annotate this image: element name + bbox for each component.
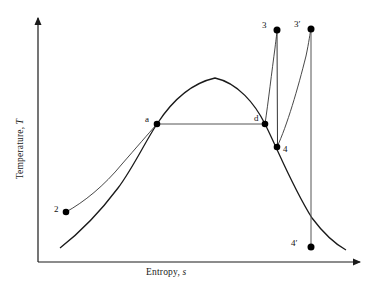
state-label-4: 4 <box>283 144 288 154</box>
state-point-d <box>262 121 269 128</box>
x-axis-title: Entropy, s <box>146 267 186 277</box>
state-label-d: d <box>254 113 259 123</box>
state-point-2 <box>63 209 70 216</box>
state-point-3 <box>274 27 281 34</box>
process-3-to-4-line <box>277 30 278 147</box>
state-point-4 <box>274 144 281 151</box>
state-label-3: 3 <box>262 20 267 30</box>
state-point-3prime <box>308 26 315 33</box>
x-axis-title-text: Entropy, <box>146 267 180 277</box>
y-axis-title: Temperature, T <box>15 102 25 196</box>
ts-diagram-figure: Entropy, s Temperature, T 2 a d 3 4 3′ 4… <box>0 0 378 291</box>
saturation-dome-curve <box>60 78 346 250</box>
x-axis-title-symbol: s <box>183 267 187 277</box>
process-4-to-3prime-curve <box>277 29 311 147</box>
ts-diagram-canvas <box>0 0 378 291</box>
state-label-4prime: 4′ <box>291 238 297 248</box>
process-d-to-3-curve <box>265 30 277 124</box>
state-point-4prime <box>308 244 315 251</box>
state-point-a <box>154 121 161 128</box>
y-axis-title-symbol: T <box>15 119 25 124</box>
state-label-2: 2 <box>54 204 59 214</box>
state-label-3prime: 3′ <box>294 19 300 29</box>
y-axis-title-text: Temperature, <box>15 127 25 180</box>
process-2-to-a-curve <box>66 124 157 212</box>
state-label-a: a <box>145 114 149 124</box>
